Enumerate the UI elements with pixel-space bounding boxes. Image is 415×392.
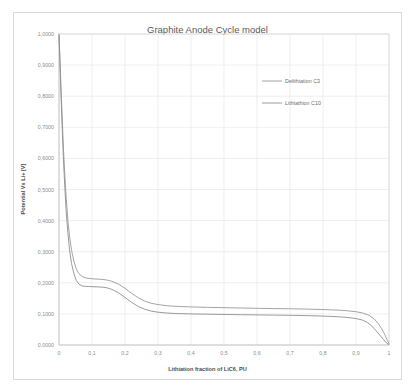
legend-label-1[interactable]: Lithiathion C10	[285, 100, 321, 106]
chart-legend[interactable]: Delithiation C3Lithiathion C10	[262, 78, 321, 106]
x-tick-label: 0,4	[187, 350, 194, 356]
y-axis-title: Potential Vs Li+ [V]	[20, 163, 26, 214]
y-tick-label: 0,5000	[38, 187, 54, 193]
x-tick-label: 0,6	[253, 350, 260, 356]
chart-card: Graphite Anode Cycle model 0,00000,10000…	[13, 12, 402, 380]
chart-canvas: Graphite Anode Cycle model 0,00000,10000…	[14, 13, 401, 379]
legend-label-0[interactable]: Delithiation C3	[285, 78, 320, 84]
y-tick-label: 0,0000	[38, 342, 54, 348]
x-axis-tick-labels: 00,10,20,30,40,50,60,70,80,91	[58, 350, 391, 356]
y-tick-label: 0,9000	[38, 62, 54, 68]
y-tick-label: 0,2000	[38, 280, 54, 286]
x-tick-label: 0,8	[319, 350, 326, 356]
y-tick-label: 0,4000	[38, 218, 54, 224]
x-tick-label: 0,1	[88, 350, 95, 356]
gridlines	[59, 34, 389, 345]
y-tick-label: 0,7000	[38, 124, 54, 130]
x-axis-title: Lithiation fraction of LiC6, PU	[168, 366, 247, 372]
y-tick-label: 0,1000	[38, 311, 54, 317]
chart-title: Graphite Anode Cycle model	[147, 24, 268, 35]
y-tick-label: 0,8000	[38, 93, 54, 99]
y-tick-label: 0,6000	[38, 155, 54, 161]
x-tick-label: 0,2	[121, 350, 128, 356]
x-tick-label: 0,3	[154, 350, 161, 356]
y-tick-label: 1,0000	[38, 31, 54, 37]
y-tick-label: 0,3000	[38, 249, 54, 255]
x-tick-label: 0,9	[352, 350, 359, 356]
x-tick-label: 1	[388, 350, 391, 356]
x-tick-label: 0	[58, 350, 61, 356]
y-axis-tick-labels: 0,00000,10000,20000,30000,40000,50000,60…	[38, 31, 54, 348]
x-tick-label: 0,5	[220, 350, 227, 356]
x-tick-label: 0,7	[286, 350, 293, 356]
